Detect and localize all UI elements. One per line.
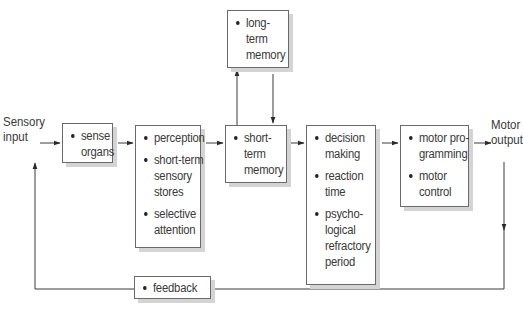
text-line: making — [325, 146, 366, 162]
text-line: organs — [81, 144, 104, 160]
motor-output-label: Motor output — [491, 117, 523, 147]
text-line: psycho- — [325, 206, 366, 222]
text-line: attention — [154, 222, 191, 238]
short-term-memory-box: short- term memory — [225, 125, 287, 183]
short-term-memory-item: short- term memory — [234, 130, 277, 178]
text-line: sense — [81, 128, 104, 144]
motor-box: motor pro- gramming motor control — [400, 125, 469, 207]
motor-output-line1: Motor — [491, 117, 523, 132]
motor-control-item: motor control — [409, 168, 459, 200]
decision-making-item: decision making — [315, 130, 365, 162]
decision-box: decision making reaction time psycho- lo… — [306, 125, 376, 285]
perception-item: perception — [144, 130, 191, 146]
text-line: time — [325, 184, 366, 200]
text-line: term — [246, 31, 279, 47]
psychological-refractory-period-item: psycho- logical refractory period — [315, 206, 365, 270]
long-term-memory-box: long- term memory — [227, 10, 289, 68]
sensory-input-line2: input — [3, 129, 45, 144]
text-line: sensory — [154, 168, 191, 184]
text-line: perception — [154, 130, 191, 146]
text-line: control — [419, 184, 459, 200]
text-line: gramming — [419, 146, 459, 162]
short-term-sensory-stores-item: short-term sensory stores — [144, 152, 191, 200]
text-line: stores — [154, 184, 191, 200]
text-line: short- — [244, 130, 277, 146]
reaction-time-item: reaction time — [315, 168, 365, 200]
text-line: memory — [244, 162, 277, 178]
text-line: reaction — [325, 168, 366, 184]
text-line: logical — [325, 222, 366, 238]
sense-organs-item: sense organs — [71, 128, 104, 160]
motor-programming-item: motor pro- gramming — [409, 130, 459, 162]
text-line: feedback — [153, 280, 200, 296]
text-line: long- — [246, 15, 279, 31]
motor-output-line2: output — [491, 132, 523, 147]
text-line: memory — [246, 47, 279, 63]
sensory-input-label: Sensory input — [3, 114, 45, 144]
text-line: motor pro- — [419, 130, 459, 146]
feedback-box: feedback — [134, 276, 211, 299]
text-line: term — [244, 146, 277, 162]
text-line: short-term — [154, 152, 191, 168]
selective-attention-item: selective attention — [144, 206, 191, 238]
sensory-input-line1: Sensory — [3, 114, 45, 129]
diagram-canvas: Sensory input Motor output sense organs … — [0, 0, 523, 315]
text-line: period — [325, 254, 366, 270]
sense-organs-box: sense organs — [62, 123, 113, 163]
text-line: refractory — [325, 238, 366, 254]
text-line: selective — [154, 206, 191, 222]
text-line: motor — [419, 168, 459, 184]
long-term-memory-item: long- term memory — [236, 15, 279, 63]
text-line: decision — [325, 130, 366, 146]
feedback-item: feedback — [143, 280, 200, 296]
perception-box: perception short-term sensory stores sel… — [135, 125, 201, 248]
